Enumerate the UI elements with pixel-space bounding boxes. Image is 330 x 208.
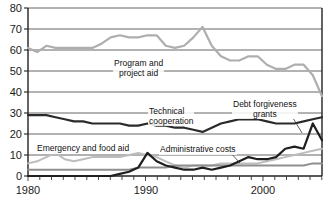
y-tick-label-20: 20: [0, 129, 22, 140]
program-and-project-aid-line2: project aid: [119, 68, 158, 78]
series-label-emergency-and-food-aid: Emergency and food aid: [36, 144, 130, 154]
y-tick-label-0: 0: [0, 171, 22, 182]
x-tick-label-1990: 1990: [126, 185, 166, 196]
x-tick-label-2000: 2000: [243, 185, 283, 196]
y-tick-label-80: 80: [0, 3, 22, 14]
y-tick-label-60: 60: [0, 45, 22, 56]
y-tick-label-10: 10: [0, 150, 22, 161]
technical-cooperation-line2: cooperation: [149, 116, 193, 126]
technical-cooperation-line1: Technical: [149, 106, 184, 116]
y-tick-label-40: 40: [0, 87, 22, 98]
administrative-costs-line1: Administrative costs: [160, 144, 236, 154]
series-label-program-and-project-aid: Program and project aid: [113, 59, 164, 78]
gridlines: [28, 8, 322, 155]
x-tick-label-1980: 1980: [8, 185, 48, 196]
debt-forgiveness-grants-line2: grants: [253, 109, 277, 119]
y-tick-label-70: 70: [0, 24, 22, 35]
emergency-and-food-aid-line1: Emergency and food aid: [37, 143, 129, 153]
line-chart: 80 70 60 50 40 30 20 10 0 1980 1990 2000…: [0, 0, 330, 208]
leader-debt-forgiveness-grants: [293, 118, 302, 133]
series-line-program-and-project-aid: [28, 27, 322, 96]
y-tick-label-50: 50: [0, 66, 22, 77]
y-tick-label-30: 30: [0, 108, 22, 119]
series-label-technical-cooperation: Technical cooperation: [148, 107, 194, 126]
debt-forgiveness-grants-line1: Debt forgiveness: [233, 99, 297, 109]
series-label-debt-forgiveness-grants: Debt forgiveness grants: [232, 100, 298, 119]
program-and-project-aid-line1: Program and: [114, 58, 163, 68]
series-label-administrative-costs: Administrative costs: [159, 145, 237, 155]
